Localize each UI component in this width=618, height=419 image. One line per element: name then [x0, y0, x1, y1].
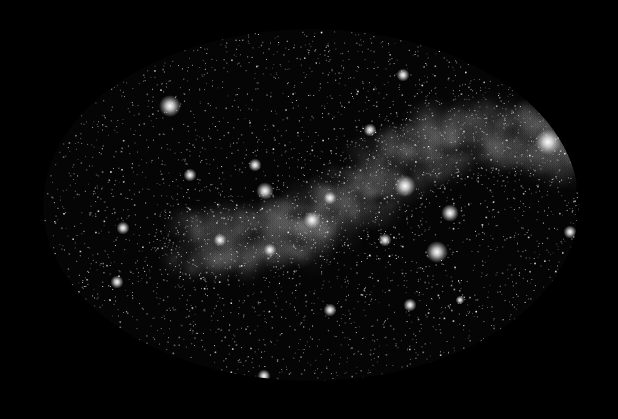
milky-way-star-field: [0, 0, 618, 419]
